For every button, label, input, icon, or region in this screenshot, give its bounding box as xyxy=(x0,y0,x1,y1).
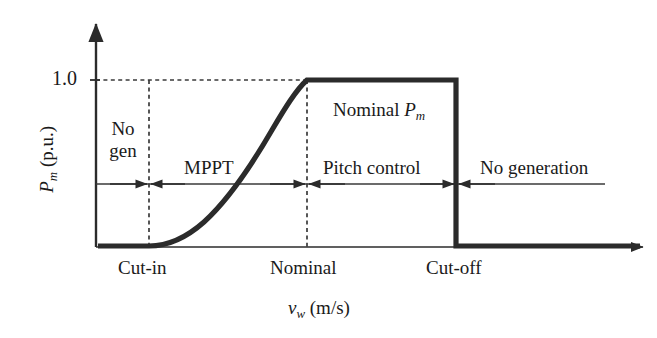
y-axis-title-subscript: m xyxy=(45,172,60,181)
y-tick-label-1-0: 1.0 xyxy=(52,68,77,89)
region-label-nominal-pm-symbol: P xyxy=(404,99,416,120)
y-axis-title-symbol: P xyxy=(36,181,57,193)
region-label-nominal-pm-subscript: m xyxy=(416,108,425,123)
x-tick-label-cut-off: Cut-off xyxy=(426,258,482,278)
x-axis-title-subscript: w xyxy=(296,306,305,321)
region-label-no-generation: No generation xyxy=(480,158,588,178)
y-axis-title-unit: (p.u.) xyxy=(36,126,57,172)
x-axis-title-unit: (m/s) xyxy=(305,297,350,318)
x-tick-label-cut-in: Cut-in xyxy=(118,258,167,278)
region-label-pitch-control: Pitch control xyxy=(323,158,421,178)
y-axis-title: Pm (p.u.) xyxy=(37,89,60,229)
power-curve-figure: 1.0 Pm (p.u.) No gen MPPT Nominal Pm Pit… xyxy=(0,0,657,338)
region-label-mppt: MPPT xyxy=(184,158,234,178)
x-axis-title: vw (m/s) xyxy=(288,298,350,321)
region-label-nominal-pm-text: Nominal xyxy=(333,99,404,120)
region-label-no-gen-line2: gen xyxy=(100,140,146,162)
region-label-nominal-pm: Nominal Pm xyxy=(333,100,425,123)
region-label-no-gen: No gen xyxy=(100,118,146,163)
x-tick-label-nominal: Nominal xyxy=(270,258,337,278)
region-label-no-gen-line1: No xyxy=(100,118,146,140)
